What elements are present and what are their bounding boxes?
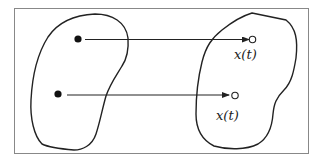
upper-target-point <box>249 36 255 42</box>
lower-initial-point <box>54 90 61 97</box>
flow-diagram: x(t) x(t) <box>0 0 320 162</box>
lower-target-point <box>232 92 238 98</box>
upper-initial-point <box>74 35 81 42</box>
evolved-region <box>196 13 297 149</box>
initial-region <box>31 14 128 150</box>
frame-border <box>15 9 309 154</box>
lower-target-label: x(t) <box>216 108 239 123</box>
upper-target-label: x(t) <box>234 47 257 62</box>
